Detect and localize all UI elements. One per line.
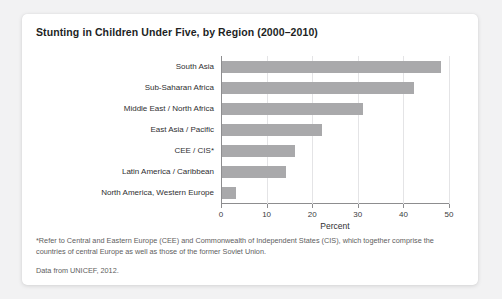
category-label: Middle East / North Africa	[124, 105, 214, 113]
chart-card: Stunting in Children Under Five, by Regi…	[22, 14, 478, 285]
x-tick-label: 0	[219, 210, 223, 219]
tick-mark	[449, 204, 450, 208]
bar-row: North America, Western Europe	[221, 187, 449, 199]
bar-row: Sub-Saharan Africa	[221, 82, 449, 94]
bar	[222, 166, 286, 178]
source-text: Data from UNICEF, 2012.	[36, 266, 460, 275]
tick-mark	[403, 204, 404, 208]
tick-mark	[358, 204, 359, 208]
chart-axes: South AsiaSub-Saharan AfricaMiddle East …	[221, 56, 449, 204]
x-tick-label: 10	[262, 210, 271, 219]
bar	[222, 124, 322, 136]
bar	[222, 187, 236, 199]
x-tick-label: 20	[308, 210, 317, 219]
bar-row: CEE / CIS*	[221, 145, 449, 157]
x-tick-label: 40	[399, 210, 408, 219]
category-label: South Asia	[176, 63, 214, 71]
bar-row: East Asia / Pacific	[221, 124, 449, 136]
footnote-text: *Refer to Central and Eastern Europe (CE…	[36, 236, 460, 257]
category-label: Latin America / Caribbean	[122, 168, 214, 176]
x-tick-label: 50	[445, 210, 454, 219]
x-axis-line	[221, 203, 449, 204]
x-axis-label: Percent	[221, 221, 449, 231]
tick-mark	[267, 204, 268, 208]
category-label: East Asia / Pacific	[150, 126, 214, 134]
bar	[222, 61, 441, 73]
bar-row: Latin America / Caribbean	[221, 166, 449, 178]
bar	[222, 145, 295, 157]
chart-plot-area: South AsiaSub-Saharan AfricaMiddle East …	[36, 50, 464, 222]
page-title: Stunting in Children Under Five, by Regi…	[36, 26, 318, 38]
tick-mark	[312, 204, 313, 208]
chart-notes: *Refer to Central and Eastern Europe (CE…	[36, 236, 460, 275]
category-label: North America, Western Europe	[101, 189, 214, 197]
tick-mark	[221, 204, 222, 208]
bar	[222, 103, 363, 115]
category-label: Sub-Saharan Africa	[145, 84, 214, 92]
bar-row: South Asia	[221, 61, 449, 73]
bar-row: Middle East / North Africa	[221, 103, 449, 115]
category-label: CEE / CIS*	[174, 147, 214, 155]
gridline	[449, 56, 450, 204]
bar	[222, 82, 414, 94]
x-tick-label: 30	[353, 210, 362, 219]
